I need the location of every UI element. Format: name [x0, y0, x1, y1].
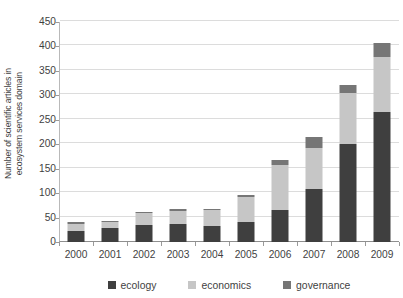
bar-group-2002[interactable] [127, 22, 161, 242]
bar-segment-ecology-2006[interactable] [272, 210, 289, 242]
bar-stack-2000[interactable] [68, 222, 85, 242]
bar-stack-2004[interactable] [204, 209, 221, 242]
bar-segment-governance-2008[interactable] [340, 85, 357, 93]
bar-group-2000[interactable] [59, 22, 93, 242]
x-tick-mark-7 [297, 242, 298, 246]
x-tick-mark-4 [195, 242, 196, 246]
x-tick-mark-3 [161, 242, 162, 246]
bar-group-2008[interactable] [331, 22, 365, 242]
x-tick-mark-2 [127, 242, 128, 246]
y-tick-label-400: 400 [16, 41, 56, 51]
legend-item-ecology[interactable]: ecology [108, 280, 157, 291]
bar-segment-economics-2000[interactable] [68, 224, 85, 231]
y-tick-label-50: 50 [16, 213, 56, 223]
bar-stack-2002[interactable] [136, 212, 153, 242]
bar-stack-2003[interactable] [170, 209, 187, 242]
gridline-450 [60, 20, 399, 21]
y-tick-label-100: 100 [16, 188, 56, 198]
stacked-bar-chart: Number of scientific articles in ecosyst… [0, 0, 403, 298]
legend-label-economics: economics [201, 280, 251, 291]
y-tick-label-250: 250 [16, 115, 56, 125]
bar-stack-2008[interactable] [340, 85, 357, 242]
bar-segment-ecology-2003[interactable] [170, 224, 187, 242]
legend-swatch-ecology [108, 281, 116, 289]
legend-swatch-governance [283, 281, 291, 289]
bar-segment-ecology-2001[interactable] [102, 228, 119, 242]
bar-stack-2001[interactable] [102, 221, 119, 242]
bar-segment-economics-2008[interactable] [340, 93, 357, 144]
bar-segment-economics-2003[interactable] [170, 211, 187, 224]
bar-group-2001[interactable] [93, 22, 127, 242]
bar-group-2009[interactable] [365, 22, 399, 242]
y-tick-label-150: 150 [16, 164, 56, 174]
bar-segment-ecology-2009[interactable] [374, 112, 391, 242]
bar-segment-ecology-2004[interactable] [204, 226, 221, 242]
legend-label-governance: governance [296, 280, 350, 291]
bar-segment-economics-2005[interactable] [238, 197, 255, 222]
bar-segment-economics-2009[interactable] [374, 57, 391, 112]
x-axis-ticks [59, 242, 399, 247]
bar-group-2004[interactable] [195, 22, 229, 242]
chart-legend: ecologyeconomicsgovernance [59, 277, 399, 293]
bar-stack-2009[interactable] [374, 43, 391, 242]
bar-segment-governance-2007[interactable] [306, 137, 323, 148]
legend-swatch-economics [188, 281, 196, 289]
bar-group-2007[interactable] [297, 22, 331, 242]
bar-segment-ecology-2000[interactable] [68, 231, 85, 242]
x-tick-mark-9 [365, 242, 366, 246]
y-axis-title-line-1: Number of scientific articles in [2, 69, 13, 180]
bar-segment-ecology-2007[interactable] [306, 189, 323, 242]
bar-segment-economics-2004[interactable] [204, 210, 221, 226]
bar-group-2003[interactable] [161, 22, 195, 242]
bar-segment-economics-2007[interactable] [306, 148, 323, 190]
bar-group-2006[interactable] [263, 22, 297, 242]
x-axis-labels: 2000200120022003200420052006200720082009 [59, 249, 399, 265]
x-tick-mark-6 [263, 242, 264, 246]
y-tick-label-350: 350 [16, 66, 56, 76]
bar-stack-2005[interactable] [238, 195, 255, 242]
bar-stack-2007[interactable] [306, 137, 323, 242]
legend-item-economics[interactable]: economics [188, 280, 251, 291]
x-tick-mark-5 [229, 242, 230, 246]
bar-group-2005[interactable] [229, 22, 263, 242]
bar-stack-2006[interactable] [272, 160, 289, 242]
x-tick-mark-0 [59, 242, 60, 246]
bar-segment-ecology-2002[interactable] [136, 225, 153, 242]
bar-segment-governance-2009[interactable] [374, 43, 391, 57]
x-tick-mark-10 [399, 242, 400, 246]
y-tick-label-300: 300 [16, 90, 56, 100]
legend-label-ecology: ecology [121, 280, 157, 291]
bar-segment-economics-2006[interactable] [272, 165, 289, 210]
y-tick-label-0: 0 [16, 237, 56, 247]
y-tick-label-450: 450 [16, 17, 56, 27]
x-tick-label-2009: 2009 [362, 249, 402, 261]
bar-segment-ecology-2005[interactable] [238, 222, 255, 242]
x-tick-mark-1 [93, 242, 94, 246]
bar-segment-economics-2002[interactable] [136, 213, 153, 225]
bars-layer [59, 22, 399, 242]
x-tick-mark-8 [331, 242, 332, 246]
legend-item-governance[interactable]: governance [283, 280, 350, 291]
bar-segment-ecology-2008[interactable] [340, 144, 357, 242]
y-tick-label-200: 200 [16, 139, 56, 149]
